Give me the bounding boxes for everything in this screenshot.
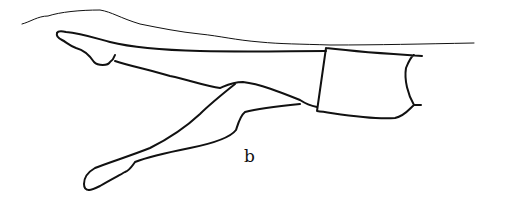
lower-leg-front	[84, 84, 235, 190]
figure-label: b	[244, 146, 255, 166]
lower-leg-back	[89, 104, 300, 190]
upper-foot	[57, 33, 115, 65]
swimmer-legs-drawing	[0, 0, 505, 208]
figure: b	[0, 0, 505, 208]
upper-leg	[57, 31, 326, 51]
water-surface-line	[22, 10, 474, 45]
shorts	[317, 48, 422, 118]
